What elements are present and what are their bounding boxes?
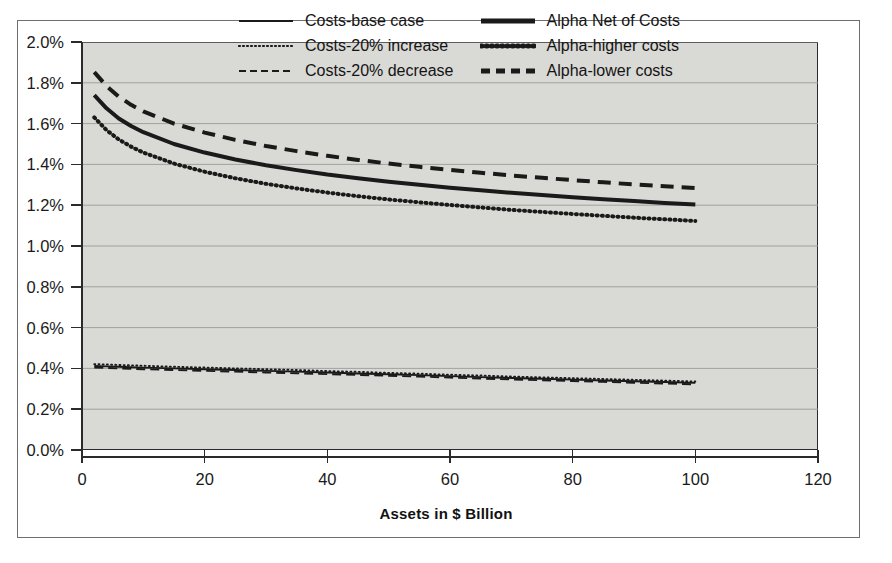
y-axis-tick-label: 2.0% <box>2 34 64 50</box>
x-axis-tick <box>817 450 819 463</box>
series-line <box>94 364 695 381</box>
legend-label: Alpha Net of Costs <box>547 13 680 29</box>
y-axis-tick <box>71 368 82 370</box>
x-axis-tick-label: 100 <box>665 470 725 489</box>
solid-thick-line-icon <box>480 13 536 29</box>
y-axis-tick-label: 1.4% <box>2 156 64 172</box>
series-line <box>94 368 695 385</box>
y-axis-tick-label: 1.8% <box>2 75 64 91</box>
x-axis-tick <box>449 450 451 463</box>
legend-column-alpha: Alpha Net of CostsAlpha-higher costsAlph… <box>480 10 680 82</box>
x-axis-tick <box>695 450 697 463</box>
legend-label: Alpha-lower costs <box>547 63 673 79</box>
x-axis-tick-label: 60 <box>420 470 480 489</box>
y-axis-tick-label: 1.2% <box>2 197 64 213</box>
y-axis-tick <box>71 408 82 410</box>
y-axis-tick <box>71 82 82 84</box>
x-axis-tick <box>327 450 329 463</box>
x-axis-tick-label: 120 <box>788 470 848 489</box>
x-axis-tick <box>572 450 574 463</box>
legend-item[interactable]: Alpha-lower costs <box>480 60 680 82</box>
x-axis-tick-label: 0 <box>52 470 112 489</box>
y-axis-tick-label: 0.6% <box>2 320 64 336</box>
dashed-thick-line-icon <box>480 63 536 79</box>
legend-label: Costs-20% increase <box>305 38 448 54</box>
legend-label: Costs-20% decrease <box>305 63 454 79</box>
legend-column-costs: Costs-base caseCosts-20% increaseCosts-2… <box>238 10 454 82</box>
y-axis-tick <box>71 327 82 329</box>
dotted-thin-line-icon <box>238 38 294 54</box>
y-axis-tick-label: 0.8% <box>2 279 64 295</box>
chart-legend: Costs-base caseCosts-20% increaseCosts-2… <box>238 10 680 82</box>
legend-item[interactable]: Costs-base case <box>238 10 454 32</box>
legend-item[interactable]: Alpha-higher costs <box>480 35 680 57</box>
chart-canvas <box>82 42 818 450</box>
x-axis-title: Assets in $ Billion <box>0 505 892 522</box>
x-axis-tick <box>204 450 206 463</box>
x-axis-tick <box>81 450 83 463</box>
y-axis-tick-label: 0.4% <box>2 360 64 376</box>
y-axis-tick-label: 0.2% <box>2 401 64 417</box>
y-axis-tick <box>71 286 82 288</box>
y-axis-tick <box>71 204 82 206</box>
x-axis-tick-label: 80 <box>543 470 603 489</box>
y-axis-tick-label: 1.6% <box>2 116 64 132</box>
chart-figure: 0.0%0.2%0.4%0.6%0.8%1.0%1.2%1.4%1.6%1.8%… <box>0 0 892 563</box>
x-axis-tick-label: 40 <box>297 470 357 489</box>
legend-item[interactable]: Costs-20% decrease <box>238 60 454 82</box>
series-line <box>94 95 695 205</box>
clipped-chart-title <box>0 0 892 3</box>
y-axis-tick-label: 1.0% <box>2 238 64 254</box>
y-axis-tick-label: 0.0% <box>2 442 64 458</box>
series-line <box>94 72 695 188</box>
legend-item[interactable]: Alpha Net of Costs <box>480 10 680 32</box>
legend-label: Alpha-higher costs <box>547 38 680 54</box>
dashed-thin-line-icon <box>238 63 294 79</box>
y-axis-tick <box>71 41 82 43</box>
plot-area-wrapper <box>82 42 818 450</box>
x-axis-tick-label: 20 <box>175 470 235 489</box>
y-axis-tick <box>71 164 82 166</box>
dotted-thick-line-icon <box>480 38 536 54</box>
y-axis-tick <box>71 123 82 125</box>
legend-label: Costs-base case <box>305 13 424 29</box>
solid-thin-line-icon <box>238 13 294 29</box>
y-axis-tick <box>71 245 82 247</box>
legend-item[interactable]: Costs-20% increase <box>238 35 454 57</box>
